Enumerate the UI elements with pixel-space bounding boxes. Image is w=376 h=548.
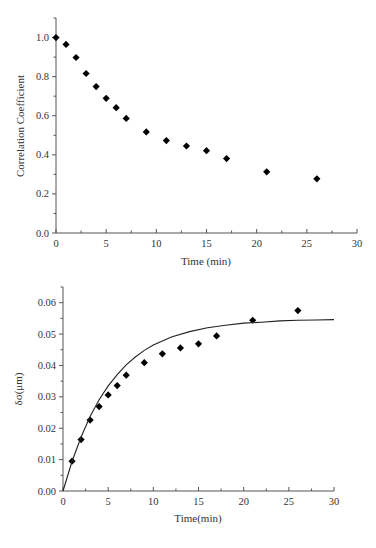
y-tick-label: 0.00	[38, 486, 56, 497]
y-tick-label: 0.05	[38, 329, 56, 340]
x-tick-label: 10	[151, 238, 162, 249]
chart1-x-axis-label: Time (min)	[181, 255, 231, 268]
data-point-diamond	[195, 340, 202, 347]
chart2-data-points	[63, 307, 334, 491]
data-point-diamond	[143, 128, 150, 135]
chart2-x-axis-label: Time(min)	[174, 512, 222, 525]
data-point-diamond	[62, 41, 69, 48]
data-point-diamond	[72, 54, 79, 61]
y-tick-label: 0.2	[36, 188, 49, 199]
data-point-diamond	[123, 115, 130, 122]
data-point-diamond	[52, 34, 59, 41]
data-point-diamond	[163, 137, 170, 144]
y-tick-label: 1.0	[36, 32, 49, 43]
x-tick-label: 20	[251, 238, 262, 249]
chart1-axes: 0510152025300.00.20.40.60.81.0	[36, 18, 362, 249]
y-tick-label: 0.0	[36, 228, 49, 239]
x-tick-label: 15	[201, 238, 212, 249]
chart1-data-points	[52, 34, 320, 183]
x-tick-label: 10	[148, 496, 159, 507]
data-point-diamond	[263, 168, 270, 175]
data-point-diamond	[83, 70, 90, 77]
y-tick-label: 0.02	[38, 423, 56, 434]
data-point-diamond	[103, 95, 110, 102]
x-tick-label: 15	[193, 496, 204, 507]
x-tick-label: 5	[106, 496, 111, 507]
data-point-diamond	[183, 142, 190, 149]
x-tick-label: 25	[302, 238, 313, 249]
y-tick-label: 0.04	[38, 360, 57, 371]
data-point-diamond	[213, 332, 220, 339]
figure-canvas: 0510152025300.00.20.40.60.81.0 Time (min…	[0, 0, 376, 548]
y-tick-label: 0.03	[38, 391, 56, 402]
chart2-y-axis-label: δσ(μm)	[12, 372, 25, 405]
x-tick-label: 5	[104, 238, 109, 249]
y-tick-label: 0.6	[36, 110, 49, 121]
y-tick-label: 0.4	[36, 149, 50, 160]
data-point-diamond	[113, 104, 120, 111]
data-point-diamond	[203, 147, 210, 154]
x-tick-label: 20	[238, 496, 249, 507]
x-tick-label: 0	[60, 496, 65, 507]
data-point-diamond	[159, 350, 166, 357]
data-point-diamond	[294, 307, 301, 314]
correlation-coefficient-chart: 0510152025300.00.20.40.60.81.0 Time (min…	[14, 18, 362, 268]
x-tick-label: 30	[329, 496, 340, 507]
y-tick-label: 0.06	[38, 297, 56, 308]
delta-sigma-chart: 0510152025300.000.010.020.030.040.050.06…	[12, 287, 339, 525]
data-point-diamond	[93, 83, 100, 90]
chart1-y-axis-label: Correlation Coefficient	[14, 75, 26, 177]
data-point-diamond	[313, 175, 320, 182]
y-tick-label: 0.8	[36, 71, 49, 82]
data-point-diamond	[141, 359, 148, 366]
figure: 0510152025300.00.20.40.60.81.0 Time (min…	[0, 0, 376, 548]
data-point-diamond	[105, 391, 112, 398]
x-tick-label: 25	[284, 496, 295, 507]
x-tick-label: 30	[352, 238, 363, 249]
data-point-diamond	[123, 372, 130, 379]
x-tick-label: 0	[53, 238, 58, 249]
data-point-diamond	[114, 382, 121, 389]
data-point-diamond	[177, 344, 184, 351]
data-point-diamond	[223, 155, 230, 162]
y-tick-label: 0.01	[38, 454, 56, 465]
